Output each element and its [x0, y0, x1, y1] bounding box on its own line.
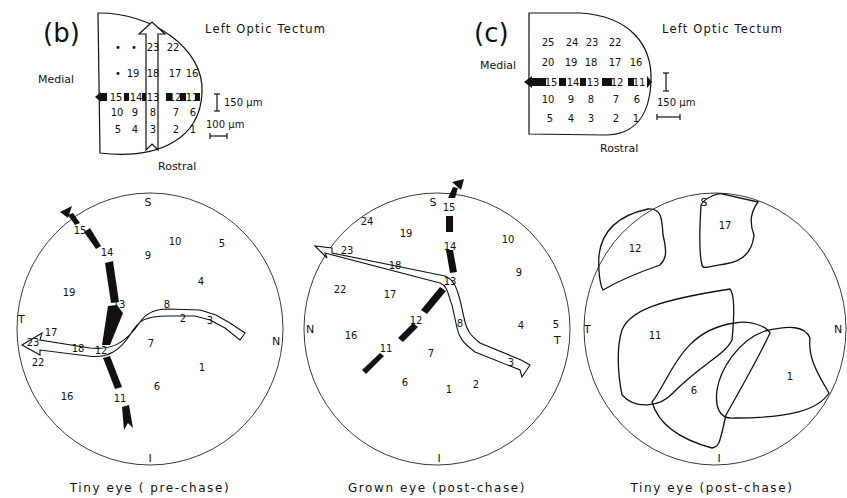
svg-text:17: 17	[384, 289, 397, 300]
panel-b-rostral-label: Rostral	[158, 160, 196, 173]
svg-text:7: 7	[613, 94, 619, 105]
panel-c-medial-label: Medial	[480, 59, 516, 72]
svg-text:8: 8	[457, 318, 463, 329]
svg-text:N: N	[834, 323, 842, 336]
receptive-field-outlines	[599, 194, 829, 448]
svg-text:17: 17	[169, 68, 182, 79]
svg-text:14: 14	[101, 247, 114, 258]
svg-text:18: 18	[389, 260, 402, 271]
svg-text:6: 6	[154, 381, 160, 392]
svg-text:10: 10	[502, 234, 515, 245]
svg-text:10: 10	[169, 236, 182, 247]
svg-text:N: N	[272, 335, 280, 348]
field-2-caption: Grown eye (post-chase)	[348, 481, 526, 495]
svg-text:11: 11	[633, 77, 646, 88]
field-1-caption: Tiny eye ( pre-chase)	[69, 481, 230, 495]
svg-text:19: 19	[63, 287, 76, 298]
panel-b-medial-label: Medial	[38, 73, 74, 86]
svg-text:4: 4	[518, 320, 524, 331]
svg-text:17: 17	[609, 57, 622, 68]
svg-text:19: 19	[400, 228, 413, 239]
svg-text:2: 2	[613, 113, 619, 124]
svg-text:•: •	[131, 42, 137, 53]
svg-text:23: 23	[27, 337, 40, 348]
svg-text:11: 11	[380, 343, 393, 354]
svg-text:13: 13	[444, 276, 457, 287]
svg-text:17: 17	[45, 327, 58, 338]
svg-text:3: 3	[207, 315, 213, 326]
svg-text:23: 23	[341, 245, 354, 256]
svg-text:18: 18	[147, 68, 160, 79]
svg-text:5: 5	[547, 113, 553, 124]
panel-c-title: Left Optic Tectum	[662, 22, 783, 36]
panel-c-scale-label: 150 μm	[657, 97, 695, 108]
svg-text:16: 16	[630, 57, 643, 68]
svg-text:12: 12	[629, 243, 642, 254]
panel-b-title: Left Optic Tectum	[205, 22, 326, 36]
svg-text:1: 1	[190, 124, 196, 135]
panel-c-rostral-label: Rostral	[600, 142, 638, 155]
svg-text:1: 1	[633, 113, 639, 124]
svg-text:12: 12	[410, 315, 423, 326]
svg-text:14: 14	[567, 77, 580, 88]
panel-b-scale-vertical: 150 μm	[224, 97, 262, 108]
field-3-labels: 12 17 11 6 1	[629, 220, 794, 396]
svg-text:S: S	[701, 196, 708, 209]
svg-text:12: 12	[169, 92, 182, 103]
svg-text:6: 6	[190, 107, 196, 118]
svg-text:2: 2	[473, 379, 479, 390]
visual-field-tiny-post: S I T N 12 17 11 6 1 Tiny eye (post-chas…	[583, 193, 846, 495]
svg-text:12: 12	[95, 345, 108, 356]
svg-text:6: 6	[634, 94, 640, 105]
svg-text:9: 9	[145, 250, 151, 261]
svg-text:9: 9	[132, 107, 138, 118]
svg-text:1: 1	[787, 371, 793, 382]
svg-text:11: 11	[649, 330, 662, 341]
svg-text:7: 7	[148, 338, 154, 349]
svg-text:8: 8	[588, 94, 594, 105]
field-3-caption: Tiny eye (post-chase)	[630, 481, 794, 495]
svg-text:1: 1	[446, 384, 452, 395]
svg-text:13: 13	[113, 299, 126, 310]
svg-text:22: 22	[334, 284, 347, 295]
svg-text:3: 3	[150, 124, 156, 135]
svg-text:15: 15	[74, 225, 87, 236]
svg-text:19: 19	[565, 57, 578, 68]
svg-text:24: 24	[361, 216, 374, 227]
svg-text:7: 7	[173, 107, 179, 118]
visual-field-tiny-pre: S I T N 15 14 10 5 9 4 19 13 8 2 3 17	[17, 193, 283, 495]
svg-text:15: 15	[545, 77, 558, 88]
svg-text:5: 5	[115, 124, 121, 135]
panel-c-label: (c)	[474, 18, 509, 48]
svg-text:10: 10	[111, 107, 124, 118]
svg-text:S: S	[430, 196, 437, 209]
svg-text:3: 3	[588, 113, 594, 124]
svg-text:T: T	[583, 323, 591, 336]
svg-text:18: 18	[585, 57, 598, 68]
svg-text:14: 14	[130, 92, 143, 103]
svg-text:1: 1	[199, 362, 205, 373]
svg-text:16: 16	[345, 330, 358, 341]
svg-text:7: 7	[428, 348, 434, 359]
svg-text:15: 15	[443, 202, 456, 213]
svg-text:11: 11	[186, 92, 199, 103]
figure: (b) Left Optic Tectum Medial Rostral • •…	[0, 0, 847, 498]
panel-b-label: (b)	[43, 18, 80, 48]
svg-text:25: 25	[542, 37, 555, 48]
svg-text:6: 6	[691, 385, 697, 396]
svg-text:3: 3	[508, 357, 514, 368]
svg-text:2: 2	[180, 313, 186, 324]
svg-text:9: 9	[516, 267, 522, 278]
svg-text:•: •	[115, 42, 121, 53]
svg-text:23: 23	[586, 37, 599, 48]
svg-text:9: 9	[568, 94, 574, 105]
svg-text:13: 13	[587, 77, 600, 88]
svg-text:22: 22	[167, 42, 180, 53]
svg-text:5: 5	[219, 238, 225, 249]
panel-b-scale-horizontal: 100 μm	[206, 119, 244, 130]
svg-text:10: 10	[542, 94, 555, 105]
svg-text:15: 15	[110, 92, 123, 103]
visual-field-grown-post: S I T N 24 15 19 10 14 23 18 13 9 22 17 …	[304, 179, 570, 495]
svg-text:16: 16	[61, 391, 74, 402]
panel-c-tectum-map: (c) Left Optic Tectum Medial Rostral 25 …	[474, 13, 783, 155]
